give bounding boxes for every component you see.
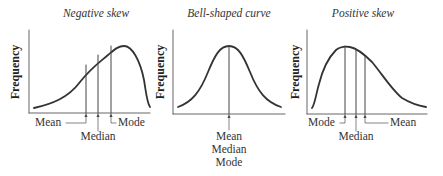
mean-label: Mean: [390, 116, 416, 128]
median-label: Median: [338, 130, 373, 142]
y-axis-label: Frequency: [153, 45, 168, 99]
panel-title-positive-skew: Positive skew: [332, 7, 394, 19]
mode-label: Mode: [308, 116, 335, 128]
arrow-icon: [110, 113, 113, 117]
panel-title-bell-curve: Bell-shaped curve: [187, 7, 270, 19]
arrow-icon: [344, 114, 347, 118]
arrow-icon: [364, 114, 367, 118]
mean-leader: [365, 118, 388, 123]
mean-label: Mean: [35, 116, 61, 128]
bell-curve-chart: [173, 30, 285, 130]
mode-leader: [111, 117, 116, 123]
arrow-icon: [228, 114, 231, 118]
y-axis-label: Frequency: [8, 45, 23, 99]
median-label: Median: [80, 130, 115, 142]
arrow-icon: [97, 113, 100, 117]
positive-skew-curve: [312, 46, 426, 108]
arrow-icon: [355, 114, 358, 118]
negative-skew-curve: [34, 46, 150, 108]
mean-label: Mean: [216, 130, 242, 142]
y-axis-label: Frequency: [288, 45, 303, 99]
panel-title-negative-skew: Negative skew: [63, 7, 129, 19]
mean-leader: [66, 117, 86, 123]
mode-label: Mode: [216, 156, 243, 168]
mode-label: Mode: [118, 116, 145, 128]
mode-leader: [340, 118, 345, 123]
arrow-icon: [85, 113, 88, 117]
median-label: Median: [211, 143, 246, 155]
